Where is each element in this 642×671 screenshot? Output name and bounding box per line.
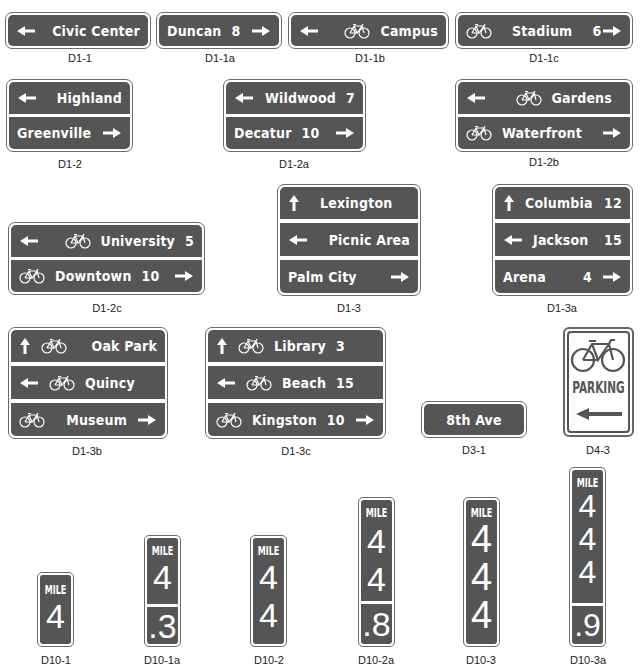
destination: Kingston [252, 412, 317, 428]
sign-code: D10-3a [558, 654, 618, 666]
mile-panel: MILE 4 4 [253, 538, 284, 644]
arrow-left-icon [17, 92, 37, 104]
sign-code: D10-1a [132, 654, 192, 666]
bicycle-icon [49, 375, 75, 391]
sign-row: Downtown 10 [11, 260, 202, 292]
destination: Decatur [234, 125, 292, 141]
fraction-panel: .9 [572, 606, 603, 644]
arrow-left-icon [466, 92, 486, 104]
arrow-right-icon [251, 25, 271, 37]
sign-d3-1: 8th Ave [421, 401, 527, 438]
distance: 10 [302, 125, 320, 141]
bicycle-icon [65, 233, 91, 249]
arrow-up-icon [503, 194, 515, 212]
sign-row: Arena 4 [495, 260, 630, 293]
destination: Downtown [55, 268, 132, 284]
sign-code: D1-3c [266, 445, 326, 457]
sign-row: Beach 15 [208, 366, 383, 399]
sign-d1-1a: Duncan 8 [156, 12, 282, 49]
sign-row: Duncan 8 [159, 15, 279, 46]
sign-d10-1: MILE 4 [37, 572, 74, 647]
sign-d1-1b: Campus [288, 12, 449, 49]
mile-fraction: .9 [574, 606, 601, 644]
distance: 4 [583, 269, 592, 285]
destination: Greenville [17, 125, 91, 141]
destination: Lexington [320, 195, 392, 211]
destination: Campus [380, 23, 438, 39]
destination: University [101, 233, 176, 249]
bicycle-icon [246, 375, 272, 391]
mile-word: MILE [258, 544, 280, 558]
arrow-up-icon [288, 194, 300, 212]
arrow-right-icon [355, 414, 375, 426]
mile-panel: MILE 4 4 4 [466, 500, 497, 644]
mile-digit: 4 [153, 558, 172, 596]
arrow-right-icon [602, 127, 622, 139]
sign-row: Oak Park [11, 330, 165, 362]
arrow-left-icon [234, 92, 254, 104]
arrow-left-icon [288, 234, 308, 246]
street-name: 8th Ave [446, 412, 502, 428]
sign-d10-3a: MILE 4 4 4 .9 [569, 467, 606, 647]
sign-code: D1-1c [514, 52, 574, 64]
sign-row: Waterfront [458, 117, 630, 149]
sign-d1-1c: Stadium 6 [455, 12, 633, 49]
destination: Gardens [552, 90, 612, 106]
sign-code: D1-1a [190, 52, 250, 64]
parking-text: PARKING [571, 379, 626, 397]
sign-code: D1-2c [77, 302, 137, 314]
destination: Duncan [167, 23, 222, 39]
distance: 7 [346, 90, 355, 106]
fraction-panel: .3 [147, 607, 178, 644]
sign-row: Highland [9, 82, 130, 114]
distance: 5 [185, 233, 194, 249]
arrow-left-icon [216, 377, 236, 389]
sign-row: Columbia 12 [495, 187, 630, 219]
destination: Highland [57, 90, 122, 106]
destination: Palm City [288, 269, 357, 285]
sign-d1-3b: Oak Park Quincy Museum [8, 327, 168, 439]
sign-row: Decatur 10 [226, 117, 363, 149]
sign-row: University 5 [11, 225, 202, 257]
sign-row: Jackson 15 [495, 223, 630, 256]
mile-digit: 4 [259, 558, 278, 596]
sign-code: D3-1 [444, 444, 504, 456]
sign-code: D1-1b [340, 52, 400, 64]
sign-d10-2a: MILE 4 4 .8 [358, 497, 395, 647]
sign-row: Kingston 10 [208, 403, 383, 436]
destination: Oak Park [92, 338, 158, 354]
arrow-right-icon [335, 127, 355, 139]
bicycle-icon [216, 412, 242, 428]
arrow-left-icon [575, 406, 623, 425]
sign-d1-2c: University 5 Downtown 10 [8, 222, 205, 295]
mile-word: MILE [45, 583, 67, 597]
mile-digit: 4 [579, 523, 597, 556]
mile-digit: 4 [367, 522, 386, 560]
destination: Wildwood [265, 90, 336, 106]
sign-code: D1-3a [532, 302, 592, 314]
mile-panel: MILE 4 4 4 [572, 470, 603, 603]
sign-d1-2a: Wildwood 7 Decatur 10 [223, 79, 366, 152]
sign-d4-3: PARKING [563, 327, 634, 437]
sign-row: Stadium 6 [458, 15, 630, 46]
sign-code: D1-1 [50, 52, 110, 64]
destination: Beach [282, 375, 326, 391]
sign-code: D1-3b [57, 445, 117, 457]
destination: Columbia [525, 195, 593, 211]
destination: Civic Center [52, 23, 140, 39]
mile-word: MILE [471, 506, 493, 520]
mile-word: MILE [366, 506, 388, 520]
mile-digit: 4 [471, 558, 492, 596]
destination: Quincy [85, 375, 135, 391]
mile-digit: 4 [46, 597, 65, 635]
mile-digit: 4 [579, 490, 597, 523]
arrow-right-icon [102, 127, 122, 139]
distance: 15 [336, 375, 354, 391]
sign-code: D1-3 [319, 302, 379, 314]
mile-word: MILE [152, 544, 174, 558]
mile-digit: 4 [367, 560, 386, 598]
sign-row: Campus [291, 15, 446, 46]
arrow-right-icon [602, 25, 622, 37]
sign-row: Civic Center [8, 15, 148, 46]
mile-digit: 4 [579, 556, 597, 589]
